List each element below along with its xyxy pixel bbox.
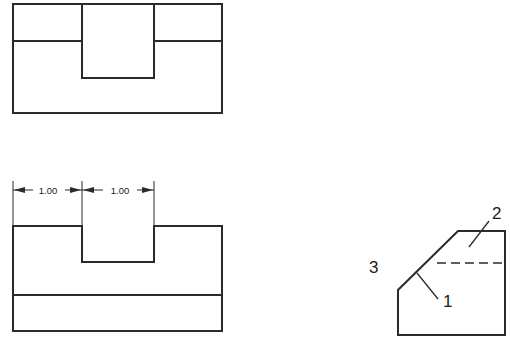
arrowhead-left-outer xyxy=(70,187,81,193)
arrowhead-right-outer xyxy=(142,187,153,193)
front-view xyxy=(13,226,222,331)
callout-1: 1 xyxy=(417,273,452,311)
dimension-left: 1.00 xyxy=(13,185,82,196)
callout-3: 3 xyxy=(369,258,378,277)
callout-2-label: 2 xyxy=(492,204,501,223)
callout-2-leader xyxy=(469,221,489,247)
front-view-outline xyxy=(13,226,222,331)
arrowhead-left-inner xyxy=(14,187,25,193)
callout-1-leader xyxy=(417,273,438,299)
top-view xyxy=(13,4,222,113)
top-view-outline xyxy=(13,4,222,113)
callouts: 1 2 3 xyxy=(369,204,501,311)
callout-1-label: 1 xyxy=(443,292,452,311)
callout-2: 2 xyxy=(469,204,501,247)
dimension-right: 1.00 xyxy=(82,185,154,196)
engineering-drawing-canvas: 1.00 1.00 1 2 3 xyxy=(0,0,510,355)
dimension-left-value: 1.00 xyxy=(39,185,58,196)
dimension-right-value: 1.00 xyxy=(111,185,130,196)
pictorial-outline xyxy=(398,231,505,335)
arrowhead-right-inner xyxy=(83,187,94,193)
pictorial-view xyxy=(398,231,505,335)
callout-3-label: 3 xyxy=(369,258,378,277)
top-view-slot xyxy=(82,4,154,78)
dimension-block: 1.00 1.00 xyxy=(13,181,154,226)
